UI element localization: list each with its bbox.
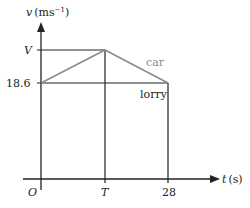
y-axis-label: v(ms−1) xyxy=(26,6,69,19)
y-axis-arrow-icon xyxy=(37,22,45,32)
x-axis-arrow-icon xyxy=(210,175,220,183)
tick-label-18-6: 18.6 xyxy=(6,77,31,90)
car-label: car xyxy=(146,56,165,69)
lorry-label: lorry xyxy=(140,88,168,101)
tick-label-28: 28 xyxy=(162,186,176,199)
x-axis-label: t(s) xyxy=(222,173,243,186)
origin-label: O xyxy=(28,186,37,199)
velocity-time-graph: v(ms−1) V 18.6 car lorry O T 28 t(s) xyxy=(0,0,250,208)
tick-label-v: V xyxy=(24,44,33,57)
tick-label-t: T xyxy=(101,186,110,199)
